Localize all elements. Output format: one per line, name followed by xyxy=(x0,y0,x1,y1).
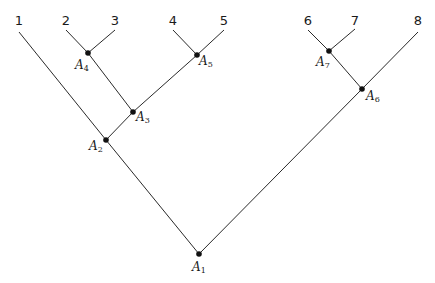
nodes-group xyxy=(85,48,365,257)
node-label-A4: A4 xyxy=(74,58,89,73)
leaf-label-3: 3 xyxy=(111,13,119,28)
leaf-label-4: 4 xyxy=(169,13,177,28)
edge-A2-A3 xyxy=(106,112,133,140)
node-A1 xyxy=(196,251,202,257)
edge-A4-3 xyxy=(88,30,115,53)
node-A7 xyxy=(326,48,332,54)
leaf-label-7: 7 xyxy=(351,13,359,28)
tree-diagram: A1A2A3A4A5A6A712345678 xyxy=(0,0,435,283)
edge-A7-6 xyxy=(308,30,329,51)
leaf-label-6: 6 xyxy=(304,13,312,28)
node-label-A6: A6 xyxy=(365,89,380,104)
node-label-A7: A7 xyxy=(315,55,330,70)
node-label-A5: A5 xyxy=(198,54,213,69)
edge-A5-5 xyxy=(197,30,224,55)
leaf-label-5: 5 xyxy=(220,13,228,28)
leaf-label-2: 2 xyxy=(62,13,70,28)
edge-A1-A2 xyxy=(106,140,199,254)
edge-A3-A5 xyxy=(133,55,197,112)
edge-A1-A6 xyxy=(199,89,362,254)
edge-A6-8 xyxy=(362,32,418,89)
node-A4 xyxy=(85,50,91,56)
node-A3 xyxy=(130,109,136,115)
node-label-A2: A2 xyxy=(88,139,103,154)
node-A6 xyxy=(359,86,365,92)
leaf-label-8: 8 xyxy=(414,13,422,28)
node-label-A1: A1 xyxy=(191,260,206,275)
node-label-A3: A3 xyxy=(135,110,150,125)
edge-A7-7 xyxy=(329,29,355,51)
node-A2 xyxy=(103,137,109,143)
edge-A5-4 xyxy=(173,30,197,55)
labels-group: A1A2A3A4A5A6A712345678 xyxy=(15,13,422,275)
edge-A3-A4 xyxy=(88,53,133,112)
edge-A4-2 xyxy=(66,30,88,53)
leaf-label-1: 1 xyxy=(15,13,23,28)
edge-A6-A7 xyxy=(329,51,362,89)
